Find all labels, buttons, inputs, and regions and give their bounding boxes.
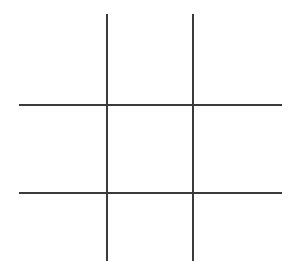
tic-tac-toe-grid: [0, 0, 299, 261]
